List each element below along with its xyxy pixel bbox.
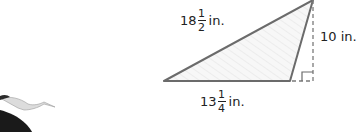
base-fraction: 1 4 — [218, 89, 226, 114]
hypotenuse-unit: in. — [209, 13, 225, 28]
hypotenuse-whole: 18 — [180, 13, 197, 28]
stork-icon — [0, 95, 55, 132]
base-unit: in. — [229, 94, 245, 109]
base-label: 13 1 4 in. — [200, 89, 245, 114]
height-label: 10 in. — [320, 29, 357, 44]
hypotenuse-fraction: 1 2 — [198, 8, 206, 33]
base-whole: 13 — [200, 94, 217, 109]
hypotenuse-label: 18 1 2 in. — [180, 8, 225, 33]
right-angle-marker — [302, 72, 313, 81]
